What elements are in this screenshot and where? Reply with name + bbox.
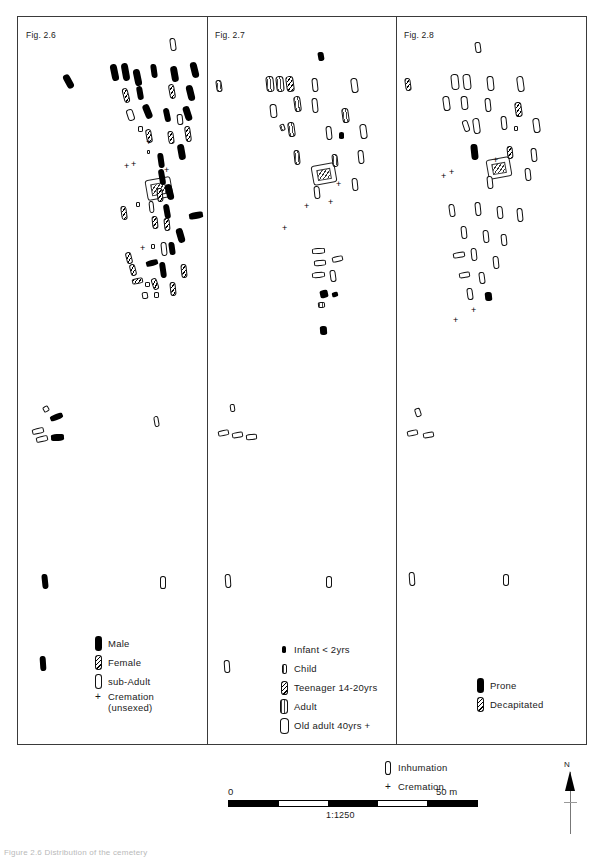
cremation-marker: + xyxy=(164,166,169,175)
grave-symbol xyxy=(357,150,364,165)
grave-symbol xyxy=(147,150,150,154)
legend-item: Adult xyxy=(274,697,377,716)
legend-sex: Male Female sub-Adult + Cremation (unsex… xyxy=(88,634,154,715)
cremation-marker: + xyxy=(449,168,454,177)
grave-symbol xyxy=(404,78,412,92)
grave-symbol xyxy=(500,116,507,131)
grave-symbol xyxy=(215,80,223,93)
grave-symbol xyxy=(265,76,275,93)
teenager-symbol-icon xyxy=(274,680,294,696)
grave-symbol xyxy=(326,576,332,588)
legend-label: Female xyxy=(108,657,141,668)
legend-item: Child xyxy=(274,659,377,678)
legend-label: Adult xyxy=(294,701,317,712)
grave-symbol xyxy=(423,431,435,439)
legend-item: Prone xyxy=(470,676,543,695)
legend-label: sub-Adult xyxy=(108,676,150,687)
grave-symbol xyxy=(31,427,44,436)
decapitated-symbol-icon xyxy=(470,697,490,713)
grave-symbol xyxy=(138,126,143,132)
legend-label: Infant < 2yrs xyxy=(294,644,350,655)
scale-bar-group: 0 50 m 1:1250 xyxy=(228,800,478,807)
cremation-marker: + xyxy=(441,172,446,181)
grave-symbol xyxy=(154,292,159,298)
grave-symbol xyxy=(49,412,63,422)
grave-symbol xyxy=(409,572,416,586)
subadult-symbol-icon xyxy=(88,674,108,690)
grave-symbol xyxy=(164,183,175,200)
grave-symbol xyxy=(341,108,350,124)
grave-symbol xyxy=(62,73,75,90)
grave-symbol xyxy=(350,78,359,94)
grave-symbol xyxy=(311,78,318,93)
grave-symbol xyxy=(486,76,495,92)
grave-symbol xyxy=(406,429,418,437)
cremation-marker: + xyxy=(493,156,498,165)
grave-symbol xyxy=(442,96,451,112)
grave-symbol xyxy=(153,416,160,428)
grave-symbol xyxy=(160,576,166,589)
grave-symbol xyxy=(331,255,343,263)
grave-symbol xyxy=(293,96,302,113)
grave-symbol xyxy=(145,258,158,267)
grave-symbol xyxy=(320,326,328,335)
grave-symbol xyxy=(189,61,200,78)
scale-max-label: 50 m xyxy=(436,786,457,797)
grave-symbol xyxy=(470,248,477,262)
grave-symbol xyxy=(317,52,324,62)
grave-symbol xyxy=(482,230,489,244)
grave-symbol xyxy=(530,148,537,163)
grave-symbol xyxy=(184,126,192,143)
cremation-marker: + xyxy=(336,180,341,189)
grave-symbol xyxy=(279,123,286,131)
grave-symbol xyxy=(51,434,64,442)
grave-symbol xyxy=(485,292,493,302)
grave-symbol xyxy=(460,226,467,240)
grave-symbol xyxy=(136,86,144,101)
scale-zero-label: 0 xyxy=(228,786,233,797)
grave-symbol xyxy=(269,104,277,119)
cremation-marker: + xyxy=(124,162,129,171)
grave-symbol xyxy=(159,262,167,279)
grave-symbol xyxy=(109,63,119,81)
legend-rite: Prone Decapitated xyxy=(470,676,543,714)
legend-item: Female xyxy=(88,653,154,672)
grave-symbol xyxy=(461,119,470,132)
grave-symbol xyxy=(470,144,479,161)
north-label: N xyxy=(564,760,570,769)
figure-caption: Figure 2.6 Distribution of the cemetery xyxy=(4,848,147,857)
grave-symbol xyxy=(524,168,531,182)
grave-symbol xyxy=(312,271,326,278)
grave-symbol xyxy=(474,202,481,217)
grave-symbol xyxy=(131,277,143,285)
grave-symbol xyxy=(359,124,368,140)
grave-symbol xyxy=(39,656,46,671)
legend-label: Child xyxy=(294,663,317,674)
grave-symbol xyxy=(484,98,491,113)
cremation-marker: + xyxy=(146,138,151,147)
grave-symbol xyxy=(188,211,203,220)
grave-symbol xyxy=(466,288,474,301)
infant-symbol-icon xyxy=(274,642,294,658)
cremation-marker: + xyxy=(328,198,333,207)
old-adult-symbol-icon xyxy=(274,718,294,734)
map-panel-rite: +++++ xyxy=(397,16,586,745)
grave-symbol xyxy=(163,108,172,123)
scale-bar xyxy=(228,800,478,807)
grave-symbol xyxy=(532,118,541,134)
legend-item: + Cremation (unsexed) xyxy=(88,691,154,715)
map-panel-age: ++++ xyxy=(208,16,396,745)
grave-symbol xyxy=(148,201,154,213)
grave-symbol xyxy=(448,204,456,218)
grave-symbol xyxy=(506,146,513,160)
grave-symbol xyxy=(136,202,140,207)
grave-symbol xyxy=(132,68,142,86)
grave-symbol xyxy=(167,131,175,145)
grave-symbol xyxy=(120,63,130,82)
grave-symbol xyxy=(150,64,158,79)
grave-symbol xyxy=(163,218,170,232)
grave-symbol xyxy=(180,264,187,279)
grave-symbol xyxy=(478,272,486,285)
grave-symbol xyxy=(169,282,176,297)
grave-symbol xyxy=(175,227,186,243)
